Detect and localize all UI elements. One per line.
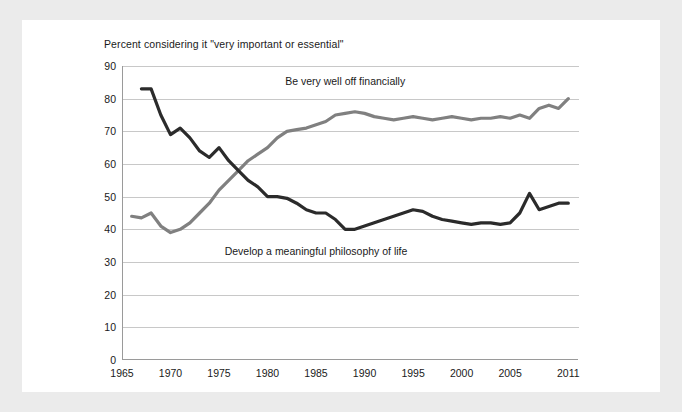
- chart-card: Percent considering it "very important o…: [22, 20, 660, 392]
- x-axis-labels: 1965197019751980198519901995200020052011: [122, 368, 592, 388]
- x-tick-label: 1985: [304, 368, 327, 379]
- x-tick-label: 1970: [159, 368, 182, 379]
- y-tick-label: 50: [86, 192, 116, 203]
- series-annotation-label: Be very well off financially: [285, 76, 405, 87]
- y-tick-label: 20: [86, 290, 116, 301]
- x-tick-label: 1990: [353, 368, 376, 379]
- series-line: [132, 99, 569, 233]
- plot-wrapper: Be very well off financiallyDevelop a me…: [122, 66, 578, 360]
- y-tick-label: 10: [86, 322, 116, 333]
- x-tick-label: 1975: [207, 368, 230, 379]
- y-tick-label: 70: [86, 126, 116, 137]
- series-annotation-label: Develop a meaningful philosophy of life: [225, 246, 408, 257]
- y-tick-label: 0: [86, 355, 116, 366]
- y-axis-labels: 0102030405060708090: [84, 66, 116, 360]
- y-tick-label: 60: [86, 159, 116, 170]
- y-tick-label: 40: [86, 224, 116, 235]
- x-tick-label: 2011: [557, 368, 580, 379]
- y-tick-label: 30: [86, 257, 116, 268]
- series-layer: [122, 66, 578, 360]
- y-tick-label: 80: [86, 94, 116, 105]
- x-tick-label: 1995: [401, 368, 424, 379]
- chart-title: Percent considering it "very important o…: [104, 38, 344, 50]
- x-tick-label: 2005: [498, 368, 521, 379]
- y-tick-label: 90: [86, 61, 116, 72]
- x-tick-label: 1980: [256, 368, 279, 379]
- x-tick-label: 2000: [450, 368, 473, 379]
- x-tick-label: 1965: [110, 368, 133, 379]
